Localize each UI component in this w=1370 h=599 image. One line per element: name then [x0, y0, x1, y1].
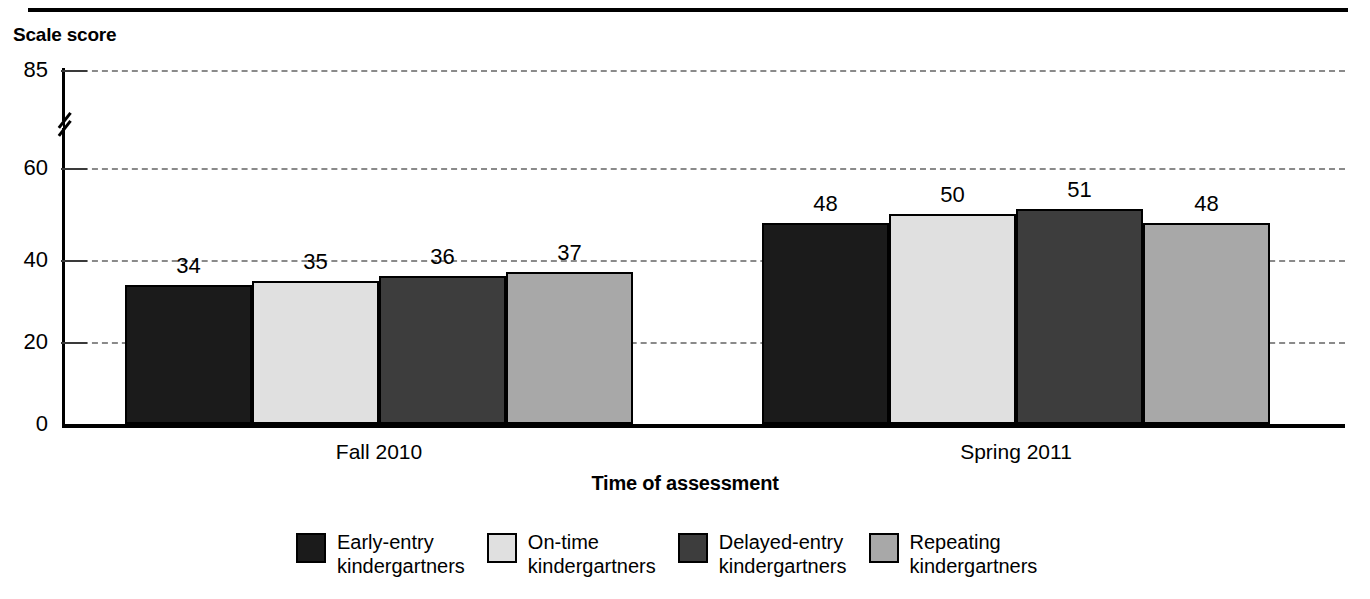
legend-item: On-time kindergartners	[487, 530, 656, 578]
axis-break-icon	[53, 110, 75, 138]
legend-label: Early-entry kindergartners	[337, 530, 465, 578]
bar-chart-figure: Scale score 3435363748505148 020406085 F…	[0, 0, 1370, 599]
legend-item: Early-entry kindergartners	[296, 530, 465, 578]
bar	[1143, 223, 1270, 424]
bar	[1016, 209, 1143, 424]
y-tick-label-40: 40	[0, 247, 48, 273]
legend-swatch-icon	[487, 533, 517, 563]
bar	[379, 276, 506, 424]
bar	[506, 272, 633, 424]
legend-item: Repeating kindergartners	[869, 530, 1038, 578]
bar-value-label: 36	[430, 244, 454, 270]
bar-value-label: 35	[303, 249, 327, 275]
legend-swatch-icon	[296, 533, 326, 563]
bar-value-label: 51	[1067, 177, 1091, 203]
x-axis-line	[62, 424, 1345, 428]
bar	[762, 223, 889, 424]
legend-label: On-time kindergartners	[528, 530, 656, 578]
legend-swatch-icon	[678, 533, 708, 563]
gridline-85	[62, 70, 1345, 72]
y-tick-40	[61, 260, 87, 262]
bar	[125, 285, 252, 424]
y-tick-label-0: 0	[0, 411, 48, 437]
y-axis-title: Scale score	[13, 24, 116, 46]
x-group-label: Spring 2011	[960, 440, 1072, 464]
y-tick-20	[61, 342, 87, 344]
legend-item: Delayed-entry kindergartners	[678, 530, 847, 578]
y-tick-85	[61, 70, 87, 72]
plot-area: 3435363748505148	[62, 68, 1345, 424]
chart-legend: Early-entry kindergartnersOn-time kinder…	[296, 530, 1096, 578]
gridline-60	[62, 168, 1345, 170]
y-tick-60	[61, 168, 87, 170]
bar-value-label: 48	[1194, 191, 1218, 217]
x-axis-title: Time of assessment	[0, 472, 1370, 495]
bar-value-label: 48	[813, 191, 837, 217]
bar	[889, 214, 1016, 424]
bar	[252, 281, 379, 425]
legend-label: Delayed-entry kindergartners	[719, 530, 847, 578]
y-tick-label-85: 85	[0, 57, 48, 83]
x-group-label: Fall 2010	[336, 440, 422, 464]
bar-value-label: 37	[557, 240, 581, 266]
y-tick-label-20: 20	[0, 329, 48, 355]
y-tick-label-60: 60	[0, 155, 48, 181]
legend-label: Repeating kindergartners	[910, 530, 1038, 578]
legend-swatch-icon	[869, 533, 899, 563]
header-rule	[28, 8, 1348, 12]
bar-value-label: 50	[940, 182, 964, 208]
bar-value-label: 34	[176, 253, 200, 279]
